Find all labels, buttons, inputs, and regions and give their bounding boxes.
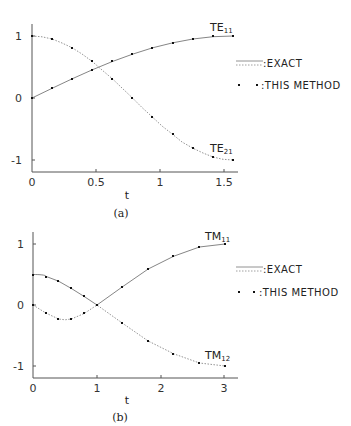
legend-exact: :EXACT bbox=[263, 264, 303, 275]
te11-label: TE11 bbox=[209, 21, 233, 35]
x-tick: 0 bbox=[29, 176, 36, 189]
tm12-points bbox=[32, 304, 226, 367]
x-axis-label: t bbox=[125, 189, 130, 202]
te11-curve bbox=[32, 36, 233, 98]
panel-a: 1 0 -1 0 0.5 1 1.5 t TE11 TE21 bbox=[11, 21, 341, 220]
panel-b: 1 0 -1 0 1 2 3 t TM11 TM12 bbox=[13, 230, 339, 424]
figure: 1 0 -1 0 0.5 1 1.5 t TE11 TE21 bbox=[0, 0, 351, 426]
y-tick: 1 bbox=[15, 30, 22, 43]
y-tick: 1 bbox=[17, 238, 24, 251]
legend-exact: :EXACT bbox=[263, 58, 303, 69]
te21-label: TE21 bbox=[209, 142, 233, 156]
x-axis-label: t bbox=[125, 394, 130, 407]
x-tick: 0.5 bbox=[87, 176, 105, 189]
x-tick: 2 bbox=[158, 382, 165, 395]
x-tick: 1 bbox=[94, 382, 101, 395]
x-tick: 3 bbox=[221, 382, 228, 395]
caption-b: (b) bbox=[112, 411, 128, 424]
y-tick: 0 bbox=[17, 299, 24, 312]
x-tick: 0 bbox=[30, 382, 37, 395]
y-tick: 0 bbox=[15, 92, 22, 105]
tm12-curve bbox=[33, 305, 225, 366]
tm12-label: TM12 bbox=[204, 349, 230, 363]
tm11-points bbox=[32, 243, 226, 306]
y-tick: -1 bbox=[13, 360, 24, 373]
tm11-label: TM11 bbox=[204, 230, 230, 244]
caption-a: (a) bbox=[113, 207, 128, 220]
x-tick: 1 bbox=[157, 176, 164, 189]
y-tick: -1 bbox=[11, 154, 22, 167]
legend-method: :THIS METHOD bbox=[261, 80, 341, 91]
tm11-curve bbox=[33, 244, 225, 305]
legend-method: :THIS METHOD bbox=[259, 287, 339, 298]
legend-b: :EXACT :THIS METHOD bbox=[236, 264, 339, 298]
x-tick: 1.5 bbox=[215, 176, 233, 189]
te11-points bbox=[31, 35, 234, 99]
legend-a: :EXACT :THIS METHOD bbox=[236, 58, 341, 91]
